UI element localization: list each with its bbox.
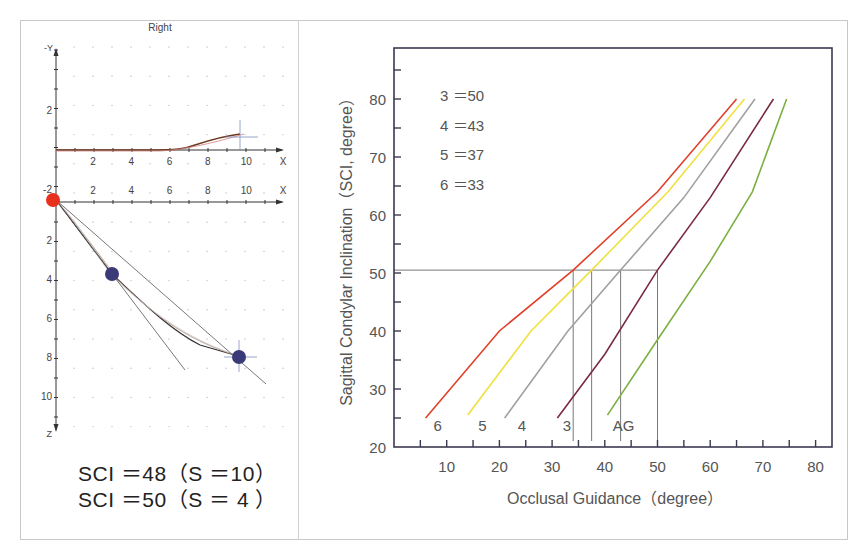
svg-text:4: 4: [129, 185, 135, 196]
svg-text:X: X: [280, 156, 287, 167]
svg-text:4: 4: [129, 156, 135, 167]
svg-text:2: 2: [46, 235, 52, 246]
svg-text:6: 6: [167, 185, 173, 196]
svg-text:6: 6: [46, 313, 52, 324]
svg-text:8: 8: [205, 156, 211, 167]
tracing-title: Right: [148, 22, 172, 33]
tracing-paths: [56, 120, 266, 384]
sci-result-2: SCI ＝50（S ＝ 4 ）: [78, 483, 277, 513]
condylar-tracing-plot: Right -Y2-2246810X246810X246810Z: [0, 0, 300, 460]
svg-text:2: 2: [90, 156, 96, 167]
tracing-axes: -Y2-2246810X246810X246810Z: [41, 43, 287, 439]
svg-text:X: X: [280, 185, 287, 196]
tracing-marker-4mm: [105, 267, 119, 281]
svg-text:4: 4: [46, 274, 52, 285]
svg-text:8: 8: [46, 352, 52, 363]
svg-text:6: 6: [167, 156, 173, 167]
svg-text:8: 8: [205, 185, 211, 196]
svg-text:10: 10: [41, 391, 53, 402]
y-axis-label: -Y: [44, 43, 53, 53]
start-point-marker: [46, 193, 60, 207]
svg-text:2: 2: [46, 105, 52, 116]
svg-text:10: 10: [241, 156, 253, 167]
svg-text:10: 10: [241, 185, 253, 196]
tracing-marker-10mm: [232, 350, 246, 364]
z-axis-label: Z: [47, 429, 53, 439]
svg-text:2: 2: [90, 185, 96, 196]
dot-grid: [73, 46, 300, 427]
